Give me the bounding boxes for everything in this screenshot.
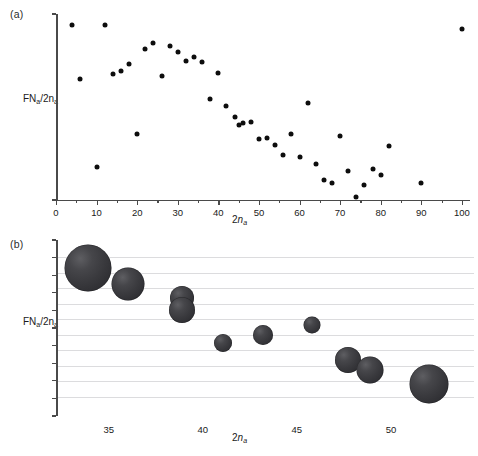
panel-a-plot-area <box>56 14 470 200</box>
panel-b-y-axis-label: FNa/2na <box>6 316 58 327</box>
panel-a-data-point <box>321 177 326 182</box>
panel-a-x-minor-tick <box>442 200 443 203</box>
panel-a-data-point <box>110 71 115 76</box>
panel-a-data-point <box>330 181 335 186</box>
panel-a-y-tick <box>52 13 56 14</box>
panel-a-x-tick <box>300 200 301 205</box>
panel-a-y-axis <box>56 14 58 200</box>
panel-b-x-axis-label: 2na <box>232 432 247 443</box>
panel-b-gridline <box>56 366 474 367</box>
panel-a-x-minor-tick <box>239 200 240 203</box>
panel-a-x-minor-tick <box>76 200 77 203</box>
panel-b-bubble <box>253 325 273 345</box>
panel-b-y-tick <box>52 292 56 293</box>
panel-a-data-point <box>265 135 270 140</box>
panel-a-data-point <box>240 120 245 125</box>
panel-a-data-point <box>378 172 383 177</box>
panel-a-x-tick-label: 0 <box>53 207 58 218</box>
panel-a-label: (a) <box>10 8 23 20</box>
panel-b-y-tick <box>52 415 56 416</box>
panel-a-data-point <box>94 164 99 169</box>
panel-a-data-point <box>273 142 278 147</box>
panel-a: (a) FNa/2na 2na 0102030405060708090100 <box>0 0 478 230</box>
panel-a-x-tick-label: 20 <box>132 207 143 218</box>
panel-a-data-point <box>386 144 391 149</box>
panel-b-bubble <box>111 267 144 300</box>
panel-b-y-tick <box>52 363 56 364</box>
panel-a-x-tick-label: 10 <box>91 207 102 218</box>
panel-a-data-point <box>248 119 253 124</box>
panel-a-data-point <box>289 132 294 137</box>
panel-a-x-tick <box>421 200 422 205</box>
panel-a-data-point <box>232 114 237 119</box>
panel-a-data-point <box>175 49 180 54</box>
panel-b-bubble <box>214 334 232 352</box>
panel-b-gridline <box>56 257 474 258</box>
panel-a-x-axis-label: 2na <box>232 214 247 225</box>
panel-a-y-axis-label: FNa/2na <box>6 93 58 104</box>
panel-a-data-point <box>297 155 302 160</box>
panel-a-data-point <box>102 22 107 27</box>
panel-a-x-minor-tick <box>157 200 158 203</box>
panel-a-data-point <box>78 76 83 81</box>
panel-b-x-tick-label: 50 <box>386 424 397 435</box>
panel-a-x-tick <box>178 200 179 205</box>
panel-a-x-minor-tick <box>401 200 402 203</box>
panel-a-x-minor-tick <box>198 200 199 203</box>
panel-a-data-point <box>167 44 172 49</box>
panel-b-gridline <box>56 319 474 320</box>
panel-a-x-tick <box>137 200 138 205</box>
panel-a-data-point <box>313 162 318 167</box>
panel-a-x-tick-label: 40 <box>213 207 224 218</box>
panel-a-x-axis <box>56 200 470 201</box>
panel-b-x-tick-label: 40 <box>197 424 208 435</box>
panel-b-bubble <box>303 316 320 333</box>
panel-a-data-point <box>338 133 343 138</box>
panel-a-data-point <box>183 59 188 64</box>
panel-a-x-tick <box>218 200 219 205</box>
panel-a-x-tick <box>340 200 341 205</box>
panel-a-x-tick-label: 100 <box>454 207 470 218</box>
panel-a-x-tick-label: 70 <box>335 207 346 218</box>
panel-b-y-tick <box>52 380 56 381</box>
panel-a-x-tick-label: 80 <box>375 207 386 218</box>
panel-a-data-point <box>159 74 164 79</box>
panel-a-data-point <box>151 40 156 45</box>
panel-b-y-tick <box>52 345 56 346</box>
panel-a-data-point <box>208 97 213 102</box>
panel-a-data-point <box>354 195 359 200</box>
panel-b-bubble <box>64 245 111 292</box>
panel-a-x-minor-tick <box>117 200 118 203</box>
panel-a-x-tick-label: 90 <box>416 207 427 218</box>
panel-a-data-point <box>281 153 286 158</box>
panel-b-label: (b) <box>10 238 23 250</box>
panel-b-y-tick <box>52 310 56 311</box>
panel-a-x-tick-label: 60 <box>294 207 305 218</box>
panel-b-y-tick <box>52 275 56 276</box>
panel-b-bubble <box>169 297 195 323</box>
panel-a-data-point <box>216 70 221 75</box>
panel-a-data-point <box>419 181 424 186</box>
panel-a-x-tick <box>56 200 57 205</box>
panel-a-data-point <box>127 62 132 67</box>
panel-a-x-tick-label: 50 <box>254 207 265 218</box>
panel-a-data-point <box>70 22 75 27</box>
panel-b-gridline <box>56 350 474 351</box>
panel-a-x-tick <box>97 200 98 205</box>
panel-a-x-minor-tick <box>320 200 321 203</box>
panel-a-data-point <box>135 132 140 137</box>
panel-a-x-tick <box>462 200 463 205</box>
panel-b-bubble <box>357 356 384 383</box>
panel-b-x-tick-label: 45 <box>292 424 303 435</box>
panel-a-data-point <box>224 104 229 109</box>
figure-container: (a) FNa/2na 2na 0102030405060708090100 (… <box>0 0 478 456</box>
panel-b-y-tick <box>52 239 56 240</box>
panel-a-x-tick <box>381 200 382 205</box>
panel-a-data-point <box>143 47 148 52</box>
panel-b-y-axis <box>56 240 58 416</box>
panel-b: (b) FNa/2na 2na 35404550 <box>0 230 478 456</box>
panel-a-data-point <box>200 60 205 65</box>
panel-a-x-tick <box>259 200 260 205</box>
panel-b-y-tick <box>52 398 56 399</box>
panel-b-x-tick-label: 35 <box>103 424 114 435</box>
